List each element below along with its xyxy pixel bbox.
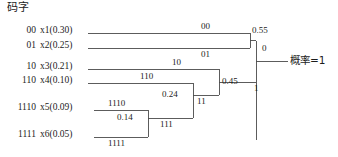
edge-label-1110: 1110: [108, 99, 125, 108]
edge-label-110: 110: [140, 72, 153, 81]
edge-label-1111: 1111: [108, 139, 125, 148]
symbol-x4: x4(0.10): [40, 76, 72, 86]
root-probability-label: 概率=1: [290, 55, 325, 66]
node-label-0-14: 0.14: [117, 113, 133, 122]
codeword-x3: 10: [2, 62, 36, 72]
node-label-0-24: 0.24: [162, 90, 178, 99]
codeword-column-header: 码字: [7, 2, 29, 13]
symbol-x6: x6(0.05): [40, 130, 72, 140]
codeword-x6: 1111: [2, 130, 36, 140]
edge-label-01: 01: [201, 50, 210, 59]
edge-label-111: 111: [160, 120, 173, 129]
codeword-x4: 110: [2, 76, 36, 86]
node-label-0-45: 0.45: [222, 77, 238, 86]
edge-label-11: 11: [197, 97, 206, 106]
huffman-tree-diagram: 码字 00 01 10 110 1110 1111 x1(0.30) x2(0.…: [0, 0, 338, 157]
node-label-0-55: 0.55: [252, 26, 268, 35]
edge-label-root-0: 0: [262, 44, 267, 53]
codeword-x5: 1110: [2, 103, 36, 113]
symbol-x2: x2(0.25): [40, 41, 72, 51]
codeword-x1: 00: [2, 26, 36, 36]
symbol-x1: x1(0.30): [40, 26, 72, 36]
codeword-x2: 01: [2, 41, 36, 51]
edge-label-root-1: 1: [254, 84, 259, 93]
edge-label-00: 00: [201, 22, 210, 31]
edge-label-10: 10: [172, 58, 181, 67]
symbol-x5: x5(0.09): [40, 103, 72, 113]
symbol-x3: x3(0.21): [40, 62, 72, 72]
